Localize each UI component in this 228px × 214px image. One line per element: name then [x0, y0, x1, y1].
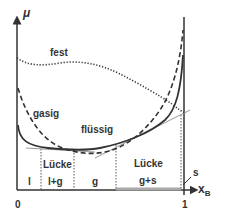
phase-diagram: μ xB 0 1 fest gasig flüssig l Lücke l+g …	[0, 0, 228, 214]
region-l: l	[28, 176, 31, 187]
label-fluessig: flüssig	[81, 124, 113, 135]
y-axis-label: μ	[22, 6, 31, 20]
x-tick-1: 1	[182, 199, 188, 210]
x-axis-label: xB	[198, 182, 211, 198]
x-tick-0: 0	[15, 199, 21, 210]
region-gs-top: Lücke	[134, 158, 163, 169]
label-fest: fest	[50, 47, 68, 58]
x-axis-label-sub: B	[205, 189, 211, 198]
curve-fest	[17, 58, 186, 113]
curve-fluessig	[18, 55, 183, 150]
region-g: g	[92, 176, 98, 187]
region-lg-top: Lücke	[43, 159, 72, 170]
region-lg-bottom: l+g	[48, 176, 63, 187]
label-gasig: gasig	[33, 108, 59, 119]
region-s: s	[193, 167, 199, 178]
region-gs-bottom: g+s	[139, 175, 157, 186]
